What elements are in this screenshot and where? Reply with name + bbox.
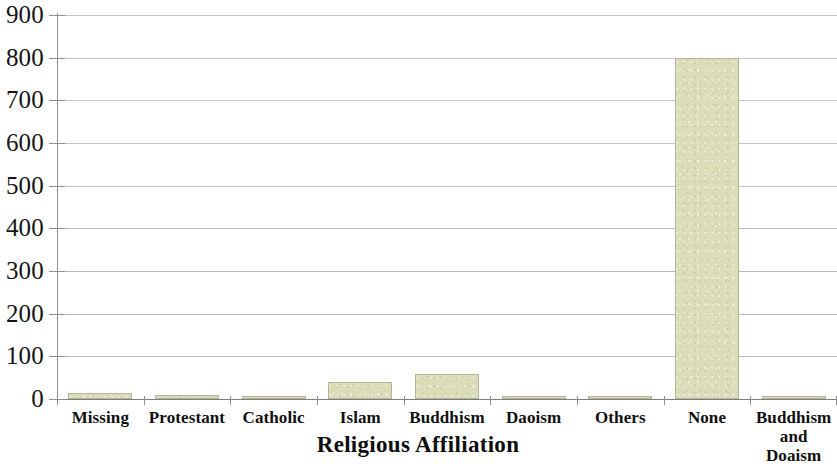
y-axis-tick-label: 500: [0, 173, 44, 198]
y-axis-tick-label: 300: [0, 258, 44, 283]
y-axis-tick-mark: [49, 58, 65, 59]
y-axis-tick-label: 200: [0, 301, 44, 326]
y-axis-tick-label: 700: [0, 87, 44, 112]
x-axis-tick-mark: [750, 396, 751, 405]
y-axis-tick-label: 800: [0, 45, 44, 70]
bar: [328, 382, 392, 399]
x-axis-tick-mark: [404, 396, 405, 405]
y-axis-tick-mark: [49, 356, 65, 357]
y-axis-line: [57, 13, 58, 401]
y-axis-tick-mark: [49, 271, 65, 272]
x-axis-tick-mark: [144, 396, 145, 405]
y-axis-tick-label: 900: [0, 2, 44, 27]
x-axis-category-label-line: Buddhism: [742, 408, 837, 427]
x-axis-tick-mark: [230, 396, 231, 405]
x-axis-tick-mark: [490, 396, 491, 405]
y-axis-tick-mark: [49, 15, 65, 16]
y-axis-tick-mark: [49, 314, 65, 315]
plot-area: [57, 15, 837, 399]
bar: [415, 374, 479, 399]
bar-chart: 0100200300400500600700800900 MissingProt…: [0, 0, 837, 474]
y-axis-tick-mark: [49, 186, 65, 187]
x-axis-tick-mark: [577, 396, 578, 405]
y-axis-tick-label: 600: [0, 130, 44, 155]
gridline: [57, 15, 837, 16]
x-axis-tick-mark: [317, 396, 318, 405]
x-axis-line: [57, 399, 837, 400]
x-axis-title: Religious Affiliation: [57, 432, 779, 458]
bar: [675, 58, 739, 399]
y-axis-tick-mark: [49, 228, 65, 229]
x-axis-tick-mark: [664, 396, 665, 405]
y-axis-tick-label: 400: [0, 215, 44, 240]
y-axis-tick-labels: 0100200300400500600700800900: [0, 0, 44, 474]
y-axis-tick-label: 0: [0, 386, 44, 411]
y-axis-tick-mark: [49, 100, 65, 101]
y-axis-tick-mark: [49, 143, 65, 144]
y-axis-tick-label: 100: [0, 343, 44, 368]
x-axis-tick-mark: [57, 396, 58, 405]
